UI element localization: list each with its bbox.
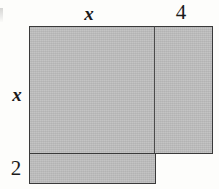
label-left-height-2: 2: [5, 158, 27, 179]
scan-artifact: [0, 8, 3, 22]
label-top-width-x: x: [78, 4, 100, 23]
geometry-figure: x 4 x 2: [0, 0, 219, 189]
region-bottom-strip: [29, 153, 156, 184]
region-main-square: [29, 26, 155, 154]
region-right-rectangle: [154, 26, 213, 154]
label-top-width-4: 4: [170, 2, 192, 23]
label-left-height-x: x: [6, 85, 28, 104]
